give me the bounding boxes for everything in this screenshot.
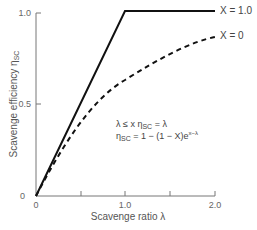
series-x-1 <box>36 11 215 196</box>
y-tick-label-05: 0.5 <box>18 99 31 109</box>
y-axis-title: Scavenge efficiency ηSC <box>8 51 20 158</box>
legend-x-0: X = 0 <box>220 30 244 41</box>
x-tick-label-2: 2.0 <box>209 200 222 210</box>
series-x-0 <box>36 37 215 196</box>
x-tick-label-1: 1.0 <box>119 200 132 210</box>
x-tick-label-0: 0 <box>33 200 38 210</box>
chart-canvas: 1.0 0.5 0 0 1.0 2.0 Scavenge ratio λ Sca… <box>0 0 257 230</box>
legend-x-1: X = 1.0 <box>220 5 252 16</box>
formula-line-1: λ ≤ x ηSC = λ <box>116 119 167 130</box>
y-tick-label-1: 1.0 <box>18 8 31 18</box>
y-tick-label-0: 0 <box>20 191 25 201</box>
y-axis-title-group: Scavenge efficiency ηSC <box>8 51 20 158</box>
formula-line-2: ηSC = 1 − (1 − X)ex−λ <box>116 130 198 142</box>
x-axis-title: Scavenge ratio λ <box>91 211 166 222</box>
